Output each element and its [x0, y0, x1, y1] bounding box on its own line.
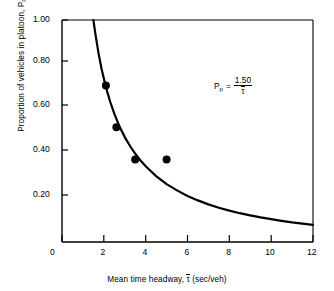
figure: 1.00 0.80 0.60 0.40 0.20 0 2 4 6 8 10 12…: [0, 0, 334, 291]
x-tick-marks: [62, 235, 313, 242]
x-axis-label-units: (sec/veh): [192, 275, 227, 284]
tau-bar-symbol-equation: τ: [241, 87, 244, 96]
equation-lhs-subscript: p: [220, 85, 223, 91]
y-tick-label-0.80: 0.80: [33, 55, 50, 65]
y-tick-label-0.60: 0.60: [33, 99, 50, 109]
x-tick-label-4: 4: [143, 247, 148, 257]
equation-annotation: Pp = 1.50 τ: [214, 76, 252, 96]
x-tick-label-6: 6: [185, 247, 190, 257]
y-tick-marks: [62, 20, 68, 195]
y-tick-label-0.20: 0.20: [33, 189, 50, 199]
y-tick-label-1.00: 1.00: [33, 14, 50, 24]
equation-lhs: Pp: [214, 81, 223, 92]
data-points: [102, 82, 171, 164]
tau-symbol-equation: τ: [241, 86, 244, 96]
x-tick-label-2: 2: [101, 247, 106, 257]
equation-equals: =: [226, 81, 231, 91]
y-axis-label: Proportion of vehicles in platoon, Pp: [12, 0, 32, 165]
tau-symbol: τ: [186, 275, 189, 284]
tau-bar-symbol: τ: [186, 275, 189, 284]
x-axis-label-prefix: Mean time headway,: [107, 275, 184, 284]
equation-denominator: τ: [241, 86, 244, 96]
x-tick-label-8: 8: [226, 247, 231, 257]
x-axis-label: Mean time headway, τ (sec/veh): [0, 268, 334, 286]
x-tick-label-12: 12: [307, 247, 317, 257]
fitted-curve: [93, 20, 313, 225]
y-axis-label-text: Proportion of vehicles in platoon, P: [17, 2, 26, 132]
equation-fraction: 1.50 τ: [234, 76, 252, 96]
y-tick-label-0.40: 0.40: [33, 144, 50, 154]
x-tick-label-10: 10: [265, 247, 275, 257]
y-axis-label-subscript: p: [21, 0, 27, 2]
y-tick-label-0: 0: [50, 247, 55, 257]
equation-numerator: 1.50: [234, 76, 252, 85]
